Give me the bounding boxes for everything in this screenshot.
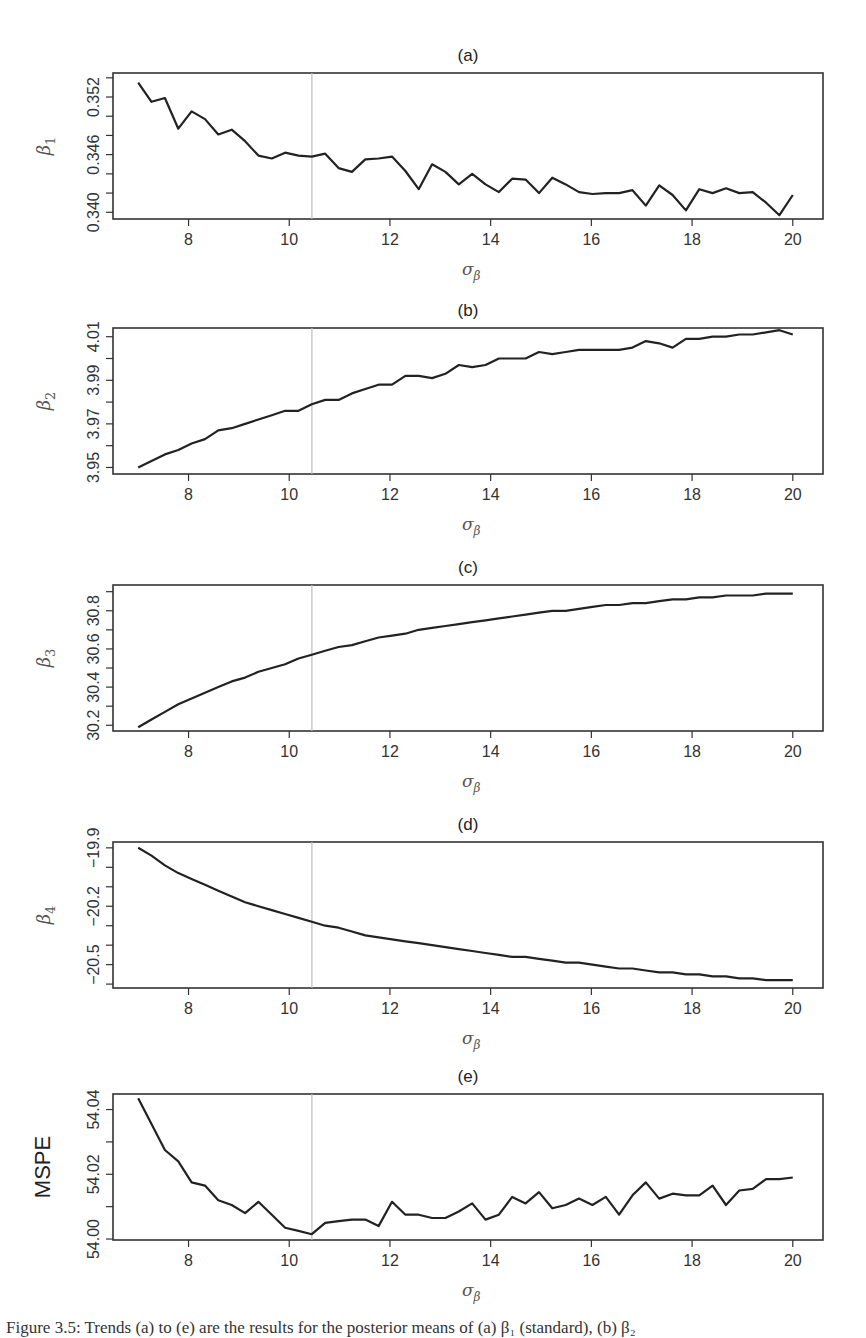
x-tick-label: 8 bbox=[184, 231, 193, 248]
x-axis-label: σβ bbox=[462, 259, 481, 283]
x-tick-label: 12 bbox=[381, 743, 399, 760]
x-tick-label: 12 bbox=[381, 1000, 399, 1017]
x-tick-label: 16 bbox=[582, 231, 600, 248]
x-tick-label: 10 bbox=[280, 1000, 298, 1017]
panel-title: (e) bbox=[458, 1067, 479, 1086]
x-tick-label: 8 bbox=[184, 743, 193, 760]
y-tick-label: 0.352 bbox=[85, 77, 102, 117]
y-tick-label: 3.95 bbox=[85, 452, 102, 483]
data-line bbox=[138, 848, 793, 980]
x-tick-label: 12 bbox=[381, 486, 399, 503]
x-axis-label: σβ bbox=[462, 1028, 481, 1052]
x-tick-label: 14 bbox=[482, 231, 500, 248]
plot-frame bbox=[113, 328, 823, 474]
x-tick-label: 16 bbox=[582, 743, 600, 760]
plot-frame bbox=[113, 1094, 823, 1240]
y-tick-label: 30.2 bbox=[85, 710, 102, 741]
panel-d: (d)8101214161820σβ−19.9−20.2−20.5β4 bbox=[33, 815, 823, 1052]
y-tick-label: 3.97 bbox=[85, 408, 102, 439]
x-tick-label: 16 bbox=[582, 1000, 600, 1017]
x-tick-label: 18 bbox=[683, 1000, 701, 1017]
x-tick-label: 12 bbox=[381, 1252, 399, 1269]
x-tick-label: 10 bbox=[280, 743, 298, 760]
x-tick-label: 14 bbox=[482, 1000, 500, 1017]
data-line bbox=[138, 83, 793, 216]
y-tick-label: 30.6 bbox=[85, 633, 102, 664]
x-tick-label: 8 bbox=[184, 1252, 193, 1269]
x-tick-label: 16 bbox=[582, 486, 600, 503]
x-tick-label: 20 bbox=[784, 486, 802, 503]
y-axis-label: β2 bbox=[33, 392, 58, 412]
x-tick-label: 18 bbox=[683, 1252, 701, 1269]
x-tick-label: 8 bbox=[184, 486, 193, 503]
y-tick-label: −20.2 bbox=[85, 886, 102, 927]
x-tick-label: 10 bbox=[280, 231, 298, 248]
y-axis-label: β3 bbox=[33, 649, 58, 669]
x-tick-label: 20 bbox=[784, 1252, 802, 1269]
y-axis-label: β4 bbox=[33, 906, 58, 926]
x-tick-label: 18 bbox=[683, 743, 701, 760]
x-axis-label: σβ bbox=[462, 514, 481, 538]
y-tick-label: 54.00 bbox=[85, 1219, 102, 1259]
x-axis-label: σβ bbox=[462, 1280, 481, 1304]
x-tick-label: 16 bbox=[582, 1252, 600, 1269]
y-tick-label: −19.9 bbox=[85, 827, 102, 868]
x-tick-label: 10 bbox=[280, 1252, 298, 1269]
plot-frame bbox=[113, 842, 823, 988]
x-tick-label: 18 bbox=[683, 231, 701, 248]
x-tick-label: 18 bbox=[683, 486, 701, 503]
y-tick-label: 0.346 bbox=[85, 135, 102, 175]
data-line bbox=[138, 594, 793, 728]
x-tick-label: 8 bbox=[184, 1000, 193, 1017]
x-tick-label: 20 bbox=[784, 743, 802, 760]
x-tick-label: 20 bbox=[784, 1000, 802, 1017]
y-tick-label: 30.8 bbox=[85, 595, 102, 626]
y-axis-label: β1 bbox=[33, 137, 58, 157]
y-tick-label: 4.01 bbox=[85, 321, 102, 352]
y-tick-label: 3.99 bbox=[85, 365, 102, 396]
panel-title: (d) bbox=[458, 815, 479, 834]
y-tick-label: 54.04 bbox=[85, 1089, 102, 1129]
x-tick-label: 12 bbox=[381, 231, 399, 248]
y-tick-label: 30.4 bbox=[85, 671, 102, 702]
y-tick-label: 0.340 bbox=[85, 192, 102, 232]
y-tick-label: −20.5 bbox=[85, 944, 102, 985]
data-line bbox=[138, 330, 793, 467]
y-tick-label: 54.02 bbox=[85, 1154, 102, 1194]
panel-title: (b) bbox=[458, 301, 479, 320]
panel-title: (c) bbox=[458, 558, 478, 577]
panel-c: (c)8101214161820σβ30.230.430.630.8β3 bbox=[33, 558, 823, 795]
panel-a: (a)8101214161820σβ0.3400.3460.352β1 bbox=[33, 46, 823, 283]
figure-caption: Figure 3.5: Trends (a) to (e) are the re… bbox=[6, 1318, 866, 1338]
x-axis-label: σβ bbox=[462, 771, 481, 795]
data-line bbox=[138, 1098, 793, 1234]
x-tick-label: 14 bbox=[482, 486, 500, 503]
x-tick-label: 20 bbox=[784, 231, 802, 248]
panel-b: (b)8101214161820σβ3.953.973.994.01β2 bbox=[33, 301, 823, 538]
x-tick-label: 10 bbox=[280, 486, 298, 503]
plot-frame bbox=[113, 585, 823, 731]
panel-e: (e)8101214161820σβ54.0054.0254.04MSPE bbox=[30, 1067, 823, 1304]
x-tick-label: 14 bbox=[482, 1252, 500, 1269]
y-axis-label: MSPE bbox=[30, 1136, 55, 1198]
plot-frame bbox=[113, 73, 823, 219]
x-tick-label: 14 bbox=[482, 743, 500, 760]
panel-title: (a) bbox=[458, 46, 479, 65]
